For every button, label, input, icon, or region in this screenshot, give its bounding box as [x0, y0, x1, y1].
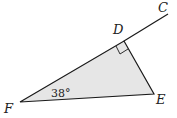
angle-label: 38°	[51, 87, 71, 100]
label-d: D	[112, 22, 124, 37]
triangle-def	[20, 41, 154, 102]
ray-dc	[124, 14, 168, 41]
label-f: F	[3, 101, 14, 116]
label-e: E	[155, 92, 166, 107]
triangle-diagram: C D E F 38°	[0, 0, 177, 118]
label-c: C	[158, 0, 168, 15]
